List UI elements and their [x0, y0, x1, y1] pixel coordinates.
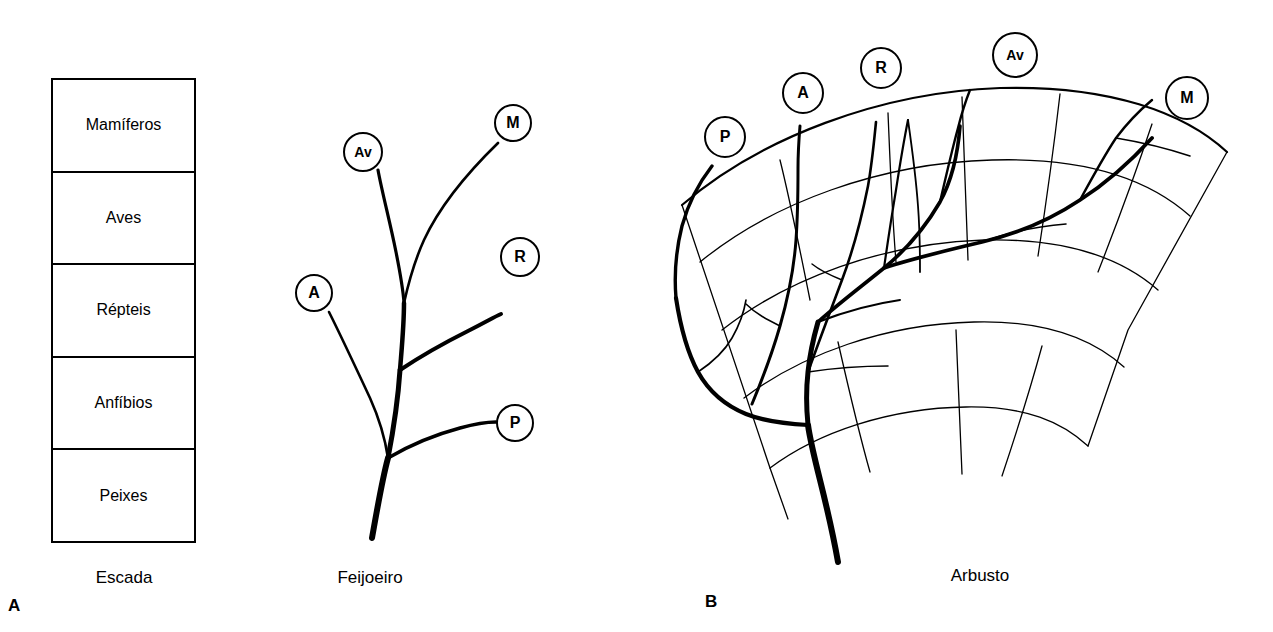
fan-radial-7 [956, 330, 962, 474]
arbusto-caption: Arbusto [890, 566, 1070, 586]
bush-twig-m-2 [1116, 138, 1190, 156]
bush-limb-m [884, 138, 1152, 268]
node-bubble-label: A [308, 284, 320, 302]
fan-outer-arc [682, 88, 1227, 205]
bush-limb-left [676, 298, 808, 425]
fan-radial-1 [780, 160, 810, 300]
spacer-path [324, 340, 372, 538]
fan-grid [682, 88, 1227, 519]
branch-anfibios [329, 312, 388, 458]
bush-twig-r [812, 264, 842, 280]
figure-root: A Mamíferos Aves Répteis Anfíbios Peixes… [0, 0, 1273, 632]
node-bubble-anfibios-b[interactable]: A [782, 72, 824, 114]
fan-radial-3 [962, 97, 968, 260]
fan-right-edge [1088, 152, 1227, 446]
branch-peixes [388, 422, 496, 458]
node-bubble-anfibios[interactable]: A [295, 274, 333, 312]
bush-limb-av-tip [940, 90, 970, 202]
escada-ladder: Mamíferos Aves Répteis Anfíbios Peixes [51, 78, 196, 543]
node-bubble-label: Av [354, 144, 371, 160]
branch-repteis [400, 314, 501, 370]
fan-arc-2 [700, 160, 1190, 262]
feijoeiro-caption: Feijoeiro [280, 568, 460, 588]
panel-a-letter: A [8, 596, 20, 616]
ladder-row: Mamíferos [53, 80, 194, 173]
node-bubble-repteis-b[interactable]: R [860, 47, 902, 89]
node-bubble-mamiferos-b[interactable]: M [1165, 76, 1209, 120]
ladder-row: Aves [53, 173, 194, 266]
fan-radial-4 [1038, 94, 1060, 256]
node-bubble-label: M [506, 114, 519, 132]
bush-twig-a [746, 304, 780, 326]
ladder-row: Peixes [53, 450, 194, 541]
bush-limb-av-left-strand [884, 120, 908, 268]
fan-arc-3 [722, 240, 1158, 330]
ladder-row: Répteis [53, 265, 194, 358]
bush-limb-r [808, 122, 876, 372]
node-bubble-aves[interactable]: Av [343, 132, 383, 172]
bush-limb-left-upper [675, 166, 712, 298]
trunk-base [372, 458, 388, 538]
fan-left-edge [682, 205, 788, 519]
node-bubble-label: R [514, 248, 526, 266]
spacer-c [746, 132, 798, 414]
bush-twig-lower-right [818, 300, 900, 322]
node-bubble-label: Av [1006, 47, 1023, 63]
escada-caption: Escada [51, 568, 197, 588]
bush-trunk-mid [807, 322, 819, 425]
node-bubble-label: M [1180, 89, 1193, 107]
fan-radial-8 [1002, 346, 1042, 476]
fan-arc-5 [770, 407, 1088, 468]
fan-radial-5 [1098, 124, 1152, 272]
bush-trunk-base [808, 425, 838, 562]
bush-limb-center [818, 126, 960, 322]
node-bubble-label: P [510, 414, 521, 432]
trunk-upper [400, 303, 404, 370]
node-bubble-peixes[interactable]: P [496, 404, 534, 442]
fan-radial-6 [838, 342, 870, 472]
node-bubble-peixes-b[interactable]: P [704, 116, 746, 158]
bush-twig-left-1 [698, 300, 746, 372]
node-bubble-label: A [797, 84, 809, 102]
bush-limb-a [752, 126, 800, 404]
branch-mamiferos [404, 143, 498, 303]
node-bubble-label: R [875, 59, 887, 77]
node-bubble-aves-b[interactable]: Av [992, 32, 1038, 78]
trunk-middle [388, 370, 400, 458]
bush-limb-m-upper [1080, 100, 1152, 200]
spacer-b [672, 206, 808, 425]
fan-radial-2 [888, 113, 896, 262]
node-bubble-label: P [720, 128, 731, 146]
ladder-row: Anfíbios [53, 358, 194, 451]
bush-limb-av-right-strand [908, 120, 920, 272]
bush-twig-m-1 [982, 224, 1066, 242]
node-bubble-repteis[interactable]: R [500, 237, 540, 277]
node-bubble-mamiferos[interactable]: M [494, 104, 532, 142]
fan-arc-4 [744, 322, 1124, 398]
branch-aves [378, 170, 404, 303]
bush-twig-lower-right-2 [808, 366, 888, 372]
panel-b-letter: B [705, 592, 717, 612]
bush-branches [672, 90, 1190, 562]
